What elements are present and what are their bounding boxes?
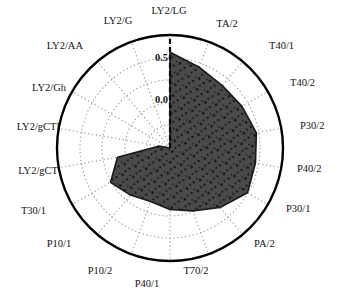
radar-chart: 0.50.0 LY2/LGTA/2T40/1T40/2P30/2P40/2P30…	[0, 0, 338, 299]
radial-tick-label: 0.0	[155, 94, 168, 105]
axis-p30-2-label: P30/2	[300, 120, 325, 131]
axis-ly2-gct-label: LY2/gCT	[18, 165, 58, 176]
axis-ta-2-label: TA/2	[216, 18, 237, 29]
axis-t40-2-label: T40/2	[290, 77, 315, 88]
axis-ly2-aa-label: LY2/AA	[47, 40, 84, 51]
axis-p40-1-label: P40/1	[135, 278, 160, 289]
axis-ly2-lg-label: LY2/LG	[151, 5, 187, 16]
axis-p10-2-label: P10/2	[88, 265, 113, 276]
axis-t40-1-label: T40/1	[269, 40, 294, 51]
axis-p10-1-label: P10/1	[47, 238, 72, 249]
axis-ly2-g-label: LY2/G	[104, 15, 133, 26]
axis-pa-2-label: PA/2	[254, 238, 275, 249]
axis-p40-2-label: P40/2	[297, 163, 322, 174]
radial-tick-label: 0.5	[155, 52, 168, 63]
radar-chart-canvas: 0.50.0 LY2/LGTA/2T40/1T40/2P30/2P40/2P30…	[0, 0, 338, 299]
axis-t30-1-label: T30/1	[21, 205, 46, 216]
axis-p30-1-label: P30/1	[286, 203, 311, 214]
axis-ly2-gcti-label: LY2/gCTI	[17, 121, 61, 132]
axis-t70-2-label: T70/2	[183, 265, 208, 276]
axis-ly2-gh-label: LY2/Gh	[32, 82, 67, 93]
